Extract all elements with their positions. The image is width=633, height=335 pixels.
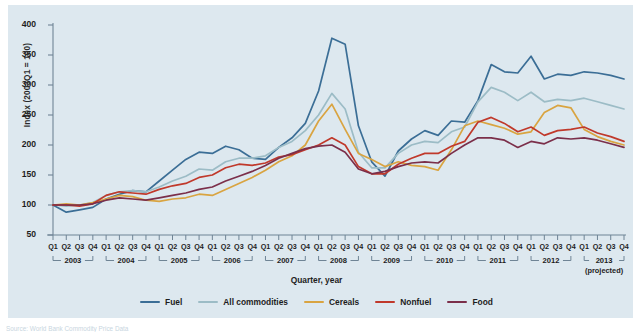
legend-label: Cereals [329, 297, 359, 307]
legend-swatch-icon [304, 301, 324, 303]
x-axis-year-2006: 2006 [212, 256, 252, 265]
commodity-price-index-chart: 50100150200250300350400 Index (2003Q1 = … [0, 0, 633, 335]
x-axis-year-2013: 2013 [584, 256, 624, 265]
legend-item-food[interactable]: Food [447, 297, 492, 307]
x-axis-year-2008: 2008 [319, 256, 359, 265]
legend-label: All commodities [223, 297, 288, 307]
x-axis-year-2011: 2011 [478, 256, 518, 265]
legend-swatch-icon [375, 301, 395, 303]
legend-item-all-commodities[interactable]: All commodities [198, 297, 288, 307]
legend-item-cereals[interactable]: Cereals [304, 297, 359, 307]
legend-label: Nonfuel [400, 297, 431, 307]
legend-label: Food [472, 297, 492, 307]
x-axis-year-2005: 2005 [159, 256, 199, 265]
chart-legend: FuelAll commoditiesCerealsNonfuelFood [0, 297, 633, 307]
x-axis-year-2007: 2007 [265, 256, 305, 265]
x-axis-year-2012: 2012 [531, 256, 571, 265]
legend-item-nonfuel[interactable]: Nonfuel [375, 297, 431, 307]
x-axis-year-note-2013: (projected) [574, 266, 633, 275]
x-tick-label-2013Q4: Q4 [614, 242, 633, 251]
legend-swatch-icon [198, 301, 218, 303]
legend-swatch-icon [140, 301, 160, 303]
x-axis-year-2004: 2004 [106, 256, 146, 265]
x-axis-title: Quarter, year [0, 275, 633, 285]
x-axis-year-2003: 2003 [53, 256, 93, 265]
legend-item-fuel[interactable]: Fuel [140, 297, 182, 307]
legend-label: Fuel [165, 297, 182, 307]
x-axis-year-2009: 2009 [372, 256, 412, 265]
legend-swatch-icon [447, 301, 467, 303]
x-axis-year-2010: 2010 [425, 256, 465, 265]
source-note: Source: World Bank Commodity Price Data [6, 325, 406, 332]
